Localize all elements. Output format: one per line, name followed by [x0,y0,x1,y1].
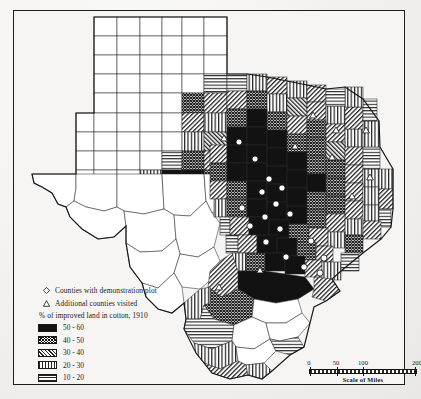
demonstration-plot-marker [247,223,253,229]
scale-tick-label: 200 [412,359,421,366]
legend-class-label: 20 - 30 [63,361,84,370]
demonstration-plot-marker [283,254,289,260]
map-legend: Counties with demonstration plot Additio… [38,284,218,385]
demonstration-plot-marker [279,185,285,191]
legend-class-row: 40 - 50 [38,335,218,346]
legend-swatch-20-30 [38,361,57,369]
legend-symbol-label: Counties with demonstration plot [55,286,157,295]
demonstration-plot-marker [236,139,242,145]
scale-tick-label: 50 [333,359,340,366]
demonstration-plot-marker [321,255,327,261]
legend-symbol-label: Additional counties visited [55,299,137,308]
demonstration-plot-marker [308,238,314,244]
demonstration-plot-marker [273,201,279,207]
legend-class-row: 10 - 20 [38,372,218,383]
triangle-marker-icon [38,300,55,307]
scale-tick-label: 100 [358,359,368,366]
scale-bar-caption: Scale of Miles [309,376,417,383]
legend-swatch-10-20 [38,374,57,382]
legend-swatch-40-50 [38,336,57,344]
legend-class-label: 40 - 50 [63,336,84,345]
demonstration-plot-marker [277,226,283,232]
demonstration-plot-marker [266,176,272,182]
map-frame: Counties with demonstration plot Additio… [13,10,405,385]
demonstration-plot-marker [263,239,269,245]
legend-swatch-30-40 [38,349,57,357]
legend-class-label: 50 - 60 [63,323,84,332]
legend-class-label: 30 - 40 [63,348,84,357]
demonstration-plot-marker [317,270,323,276]
map-page: Counties with demonstration plot Additio… [0,0,421,399]
scale-tick-label: 0 [307,359,310,366]
legend-class-row: 20 - 30 [38,360,218,371]
legend-classes-title: % of improved land in cotton, 1910 [39,311,218,320]
demonstration-plot-marker [262,214,268,220]
legend-class-label: 10 - 20 [63,373,84,382]
scale-bar-graphic [309,369,417,374]
scale-bar: 0 50 100 200 Scale of Miles [309,359,417,383]
demonstration-plot-marker [301,264,307,270]
demonstration-plot-marker [252,156,258,162]
diamond-marker-icon [38,287,55,294]
legend-symbol-row: Additional counties visited [38,297,218,309]
legend-class-row: 50 - 60 [38,322,218,333]
demonstration-plot-marker [259,189,265,195]
demonstration-plot-marker [287,211,293,217]
demonstration-plot-marker [239,205,245,211]
legend-class-row: 30 - 40 [38,347,218,358]
legend-symbol-row: Counties with demonstration plot [38,284,218,296]
legend-swatch-50-60 [38,324,57,332]
